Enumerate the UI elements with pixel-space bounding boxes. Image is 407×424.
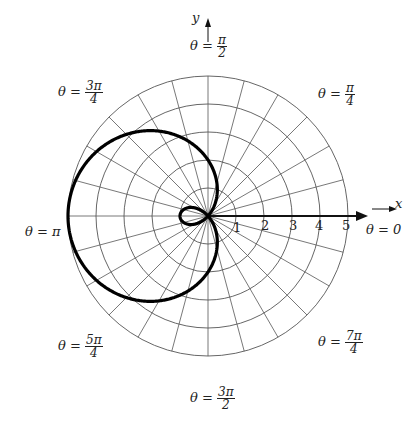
angle-label-7pi-4: θ = 7π4: [318, 330, 363, 355]
radial-tick-2: 2: [261, 218, 269, 233]
radial-tick-4: 4: [315, 218, 323, 233]
x-axis-label: x: [395, 196, 402, 211]
angle-label-pi-2: θ = π2: [190, 34, 227, 59]
polar-chart: y x θ = π2 θ = 3π4 θ = π4 θ = π θ = 0 θ …: [0, 0, 407, 424]
grid-spoke: [208, 216, 244, 351]
grid-spoke: [138, 95, 208, 216]
polar-plot-area: [0, 0, 407, 424]
grid-spoke: [138, 216, 208, 337]
grid-spoke: [87, 146, 208, 216]
grid-spoke: [208, 216, 278, 337]
grid-spoke: [172, 216, 208, 351]
grid-spoke: [208, 95, 278, 216]
grid-spoke: [172, 81, 208, 216]
grid-spoke: [208, 146, 329, 216]
grid-spoke: [87, 216, 208, 286]
angle-label-3pi-4: θ = 3π4: [58, 80, 103, 105]
y-arrow-head: [205, 18, 211, 27]
grid-spoke: [73, 180, 208, 216]
angle-label-pi: θ = π: [25, 224, 61, 239]
angle-label-pi-4: θ = π4: [318, 82, 355, 107]
polar-axis-arrow: [356, 211, 368, 221]
y-axis-label: y: [192, 10, 199, 25]
grid-spoke: [208, 81, 244, 216]
grid-spoke: [208, 180, 343, 216]
grid-spoke: [73, 216, 208, 252]
grid-spoke: [208, 117, 307, 216]
radial-tick-3: 3: [289, 218, 297, 233]
angle-label-3pi-2: θ = 3π2: [190, 386, 235, 411]
radial-tick-5: 5: [342, 218, 350, 233]
angle-label-5pi-4: θ = 5π4: [58, 334, 103, 359]
radial-tick-1: 1: [233, 220, 241, 235]
angle-label-0: θ = 0: [366, 222, 401, 237]
